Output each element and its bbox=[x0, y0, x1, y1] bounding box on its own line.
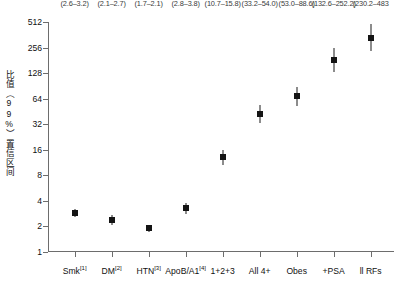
x-tick-label: DM[2] bbox=[102, 266, 122, 276]
confidence-interval-label: (230.2–483 bbox=[353, 0, 389, 8]
confidence-interval-label: (2.1–2.7) bbox=[98, 0, 126, 8]
data-point-marker bbox=[220, 154, 226, 160]
confidence-interval-label: (1.7–2.1) bbox=[135, 0, 163, 8]
x-tick bbox=[223, 252, 224, 257]
x-tick bbox=[75, 252, 76, 257]
y-tick-label: 128 bbox=[2, 68, 42, 78]
confidence-interval-label: (10.7–15.8) bbox=[205, 0, 241, 8]
x-label-superscript: [3] bbox=[154, 265, 161, 271]
y-tick-label: 1 bbox=[2, 247, 42, 257]
y-tick-label: 8 bbox=[2, 170, 42, 180]
y-tick bbox=[43, 226, 48, 227]
x-tick-label: ll RFs bbox=[360, 266, 382, 276]
x-tick-label: Smk[1] bbox=[63, 266, 87, 276]
plot-area: 1248163264128256512 Smk[1]DM[2]HTN[3]Apo… bbox=[48, 22, 394, 252]
y-tick bbox=[43, 150, 48, 151]
x-tick-label: HTN[3] bbox=[136, 266, 160, 276]
data-point-marker bbox=[294, 93, 300, 99]
y-tick bbox=[43, 99, 48, 100]
x-tick-label: +PSA bbox=[323, 266, 345, 276]
data-point-marker bbox=[72, 210, 78, 216]
confidence-interval-label: (132.6–252.2) bbox=[312, 0, 356, 8]
data-point-marker bbox=[368, 35, 374, 41]
chart-container: (2.6–3.2)(2.1–2.7)(1.7–2.1)(2.8–3.8)(10.… bbox=[0, 0, 402, 281]
x-label-superscript: [1] bbox=[80, 265, 87, 271]
y-tick bbox=[43, 175, 48, 176]
confidence-interval-label: (53.0–88.6) bbox=[279, 0, 315, 8]
x-tick bbox=[371, 252, 372, 257]
x-tick bbox=[260, 252, 261, 257]
confidence-interval-label: (33.2–54.0) bbox=[242, 0, 278, 8]
y-tick bbox=[43, 201, 48, 202]
data-point-marker bbox=[109, 217, 115, 223]
y-tick bbox=[43, 48, 48, 49]
x-tick-label: 1+2+3 bbox=[210, 266, 234, 276]
confidence-interval-label: (2.6–3.2) bbox=[61, 0, 89, 8]
x-tick-label: Obes bbox=[286, 266, 307, 276]
x-axis-line bbox=[48, 251, 394, 252]
y-tick-label: 512 bbox=[2, 17, 42, 27]
y-tick bbox=[43, 22, 48, 23]
y-tick-label: 4 bbox=[2, 196, 42, 206]
y-tick-label: 2 bbox=[2, 221, 42, 231]
x-label-superscript: [2] bbox=[115, 265, 122, 271]
x-tick bbox=[149, 252, 150, 257]
x-tick-label: ApoB/A1[4] bbox=[165, 266, 206, 276]
x-tick bbox=[334, 252, 335, 257]
y-tick-label: 64 bbox=[2, 94, 42, 104]
y-tick bbox=[43, 252, 48, 253]
confidence-interval-label: (2.8–3.8) bbox=[172, 0, 200, 8]
x-tick bbox=[297, 252, 298, 257]
x-tick-label: All 4+ bbox=[249, 266, 271, 276]
data-point-marker bbox=[146, 225, 152, 231]
y-tick bbox=[43, 73, 48, 74]
y-tick-label: 32 bbox=[2, 119, 42, 129]
y-tick-label: 256 bbox=[2, 43, 42, 53]
data-point-marker bbox=[183, 205, 189, 211]
y-tick bbox=[43, 124, 48, 125]
data-point-marker bbox=[257, 111, 263, 117]
confidence-interval-annotation-row: (2.6–3.2)(2.1–2.7)(1.7–2.1)(2.8–3.8)(10.… bbox=[0, 0, 402, 10]
y-axis-line bbox=[48, 22, 49, 252]
data-point-marker bbox=[331, 57, 337, 63]
x-tick bbox=[186, 252, 187, 257]
x-tick bbox=[112, 252, 113, 257]
x-label-superscript: [4] bbox=[199, 265, 206, 271]
y-tick-label: 16 bbox=[2, 145, 42, 155]
